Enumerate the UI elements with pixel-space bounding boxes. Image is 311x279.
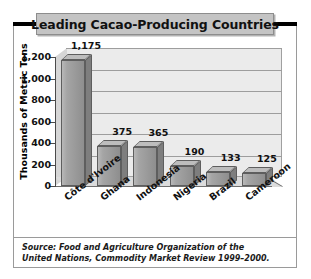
gridline <box>66 113 282 114</box>
bar-value-label: 1,175 <box>64 40 108 51</box>
y-axis-tick-label: 200 <box>7 159 51 170</box>
source-line-1: Source: Food and Agriculture Organizatio… <box>22 243 282 254</box>
y-axis-line <box>55 57 56 187</box>
y-axis-tick-label: 0 <box>7 180 51 191</box>
chart-title: Leading Cacao-Producing Countries <box>31 17 279 32</box>
y-axis-tick-label: 600 <box>7 116 51 127</box>
bar-value-label: 365 <box>136 127 180 138</box>
bar <box>61 60 85 186</box>
source-divider <box>14 237 296 238</box>
gridline <box>66 91 282 92</box>
chart-figure: Leading Cacao-Producing Countries Thousa… <box>0 0 311 279</box>
bar-side-face <box>85 54 92 186</box>
bar-front-face <box>61 60 85 186</box>
source-note: Source: Food and Agriculture Organizatio… <box>22 243 282 264</box>
source-line-2: United Nations, Commodity Market Review … <box>22 254 282 265</box>
y-axis-tick-label: 400 <box>7 137 51 148</box>
y-axis-tick-label: 1,000 <box>7 73 51 84</box>
y-axis-tick-label: 800 <box>7 94 51 105</box>
gridline <box>66 70 282 71</box>
title-box: Leading Cacao-Producing Countries <box>36 13 274 35</box>
y-axis-tick-label: 1,200 <box>7 51 51 62</box>
chart-title-banner: Leading Cacao-Producing Countries <box>13 13 297 35</box>
